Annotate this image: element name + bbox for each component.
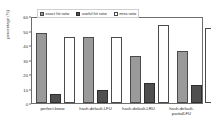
bar-miss (111, 37, 122, 103)
plot-area (31, 17, 203, 104)
y-tick-label: 30 (23, 58, 28, 63)
bar-useful (191, 85, 202, 103)
bar-useful (97, 90, 108, 103)
x-axis-label: perfect-know (31, 106, 74, 116)
y-tick-label: 60 (23, 15, 28, 20)
legend-swatch-useful (76, 12, 80, 16)
y-tick-label: 0 (26, 102, 28, 107)
bar-group (32, 18, 79, 103)
bar-chart: percentage (%) 0102030405060 exact hit r… (0, 0, 211, 129)
bar-group (126, 18, 173, 103)
bar-exact (36, 33, 47, 103)
y-tick-label: 40 (23, 44, 28, 49)
y-tick-label: 10 (23, 87, 28, 92)
bar-useful (144, 83, 155, 103)
y-tick-label: 50 (23, 29, 28, 34)
legend-item: miss ratio (114, 11, 137, 16)
x-axis-label: hash-default-LFU (74, 106, 117, 116)
x-axis-labels: perfect-knowhash-default-LFUhash-default… (31, 106, 203, 116)
bar-groups (32, 18, 202, 103)
bar-exact (130, 56, 141, 103)
legend-label: useful hit ratio (82, 11, 107, 16)
bar-exact (83, 37, 94, 103)
bar-useful (50, 94, 61, 103)
chart-legend: exact hit ratiouseful hit ratiomiss rati… (37, 9, 139, 18)
bar-miss (158, 25, 169, 103)
legend-swatch-miss (114, 12, 118, 16)
bar-miss (64, 37, 75, 103)
legend-label: miss ratio (119, 11, 136, 16)
x-axis-label: hash-default-LRU (117, 106, 160, 116)
bar-group (173, 18, 211, 103)
legend-item: useful hit ratio (76, 11, 106, 16)
x-axis-label: hash-default-partialLFU (160, 106, 203, 116)
y-tick-label: 20 (23, 73, 28, 78)
bar-exact (177, 51, 188, 103)
bar-miss (205, 28, 211, 103)
bar-group (79, 18, 126, 103)
legend-item: exact hit ratio (40, 11, 69, 16)
legend-label: exact hit ratio (46, 11, 70, 16)
y-axis-ticks: 0102030405060 (0, 17, 31, 104)
legend-swatch-exact (40, 12, 44, 16)
